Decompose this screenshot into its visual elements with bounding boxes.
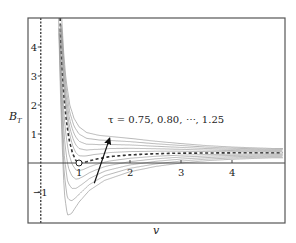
critical-point-marker xyxy=(76,160,82,166)
y-tick-label: 2 xyxy=(31,100,37,111)
isotherm-curve xyxy=(62,18,283,149)
y-tick-label: 3 xyxy=(31,71,37,82)
chart-plot: 1234 −11234 τ = 0.75, 0.80, ⋯, 1.25 v BT xyxy=(0,0,296,243)
tau-annotation: τ = 0.75, 0.80, ⋯, 1.25 xyxy=(108,114,224,125)
y-axis-ticks: −11234 xyxy=(31,42,48,198)
y-tick-label: 4 xyxy=(31,42,37,53)
x-tick-label: 3 xyxy=(178,167,184,178)
x-axis-label: v xyxy=(153,224,160,237)
y-axis-label: BT xyxy=(8,110,23,125)
tau-arrow xyxy=(94,138,109,183)
x-tick-label: 4 xyxy=(229,167,235,178)
isotherm-curve xyxy=(61,28,282,151)
critical-isotherm-curve xyxy=(60,18,282,163)
isotherm-curve xyxy=(59,33,282,188)
x-tick-label: 1 xyxy=(76,167,82,178)
y-tick-label: 1 xyxy=(31,129,37,140)
isotherm-curve xyxy=(61,25,282,150)
isotherm-curve xyxy=(60,25,282,157)
y-tick-label: −1 xyxy=(33,187,48,198)
isotherm-curve xyxy=(61,28,282,151)
x-tick-label: 2 xyxy=(127,167,133,178)
